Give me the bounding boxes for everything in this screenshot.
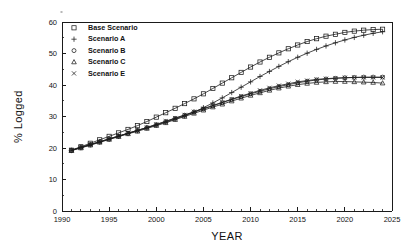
series-marker-1 bbox=[333, 40, 338, 45]
series-line-3 bbox=[71, 82, 382, 151]
scan-artifact bbox=[61, 11, 63, 13]
legend-label-4: Scenario E bbox=[88, 69, 125, 78]
x-tick-label: 1995 bbox=[101, 215, 118, 224]
y-tick-label: 60 bbox=[49, 18, 57, 27]
series-marker-1 bbox=[257, 74, 262, 79]
series-marker-1 bbox=[286, 59, 291, 64]
series-marker-1 bbox=[352, 35, 357, 40]
series-marker-1 bbox=[276, 64, 281, 69]
legend-marker-2 bbox=[72, 49, 76, 53]
x-tick-label: 2025 bbox=[384, 215, 401, 224]
x-axis-title: YEAR bbox=[211, 230, 243, 242]
legend-marker-3 bbox=[72, 60, 77, 64]
line-chart: 0102030405060199019952000200520102015202… bbox=[0, 0, 414, 252]
series-marker-1 bbox=[239, 85, 244, 90]
series-line-2 bbox=[71, 77, 382, 150]
series-marker-1 bbox=[361, 33, 366, 38]
series-marker-1 bbox=[220, 95, 225, 100]
x-tick-label: 2005 bbox=[195, 215, 212, 224]
legend-label-3: Scenario C bbox=[88, 57, 126, 66]
y-axis-title: % Logged bbox=[12, 90, 24, 143]
series-marker-1 bbox=[229, 90, 234, 95]
x-tick-label: 2020 bbox=[337, 215, 354, 224]
y-tick-label: 20 bbox=[49, 144, 57, 153]
legend-marker-0 bbox=[72, 26, 76, 30]
x-tick-label: 2000 bbox=[148, 215, 165, 224]
y-tick-label: 50 bbox=[49, 49, 57, 58]
figure-container: 0102030405060199019952000200520102015202… bbox=[0, 0, 414, 252]
x-tick-label: 2010 bbox=[242, 215, 259, 224]
series-marker-1 bbox=[342, 37, 347, 42]
series-line-4 bbox=[71, 77, 382, 150]
legend-label-1: Scenario A bbox=[88, 34, 125, 43]
legend-label-0: Base Scenario bbox=[88, 23, 138, 32]
x-tick-label: 2015 bbox=[289, 215, 306, 224]
legend-label-2: Scenario B bbox=[88, 46, 126, 55]
x-tick-label: 1990 bbox=[54, 215, 71, 224]
legend-marker-4 bbox=[72, 71, 76, 75]
series-marker-1 bbox=[305, 51, 310, 56]
y-tick-label: 30 bbox=[49, 112, 57, 121]
series-marker-1 bbox=[248, 79, 253, 84]
series-marker-1 bbox=[267, 69, 272, 74]
legend-marker-1 bbox=[71, 37, 76, 42]
y-tick-label: 40 bbox=[49, 81, 57, 90]
series-marker-1 bbox=[323, 43, 328, 48]
series-marker-1 bbox=[295, 55, 300, 60]
series-marker-1 bbox=[314, 47, 319, 52]
y-tick-label: 10 bbox=[49, 175, 57, 184]
